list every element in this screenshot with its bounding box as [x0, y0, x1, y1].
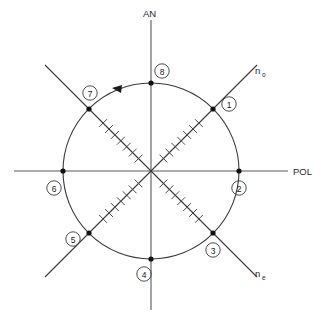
node-dot-2 — [236, 168, 241, 173]
extraordinary-index-axis-label: n e — [255, 268, 266, 281]
node-dot-4 — [148, 256, 153, 261]
marker-label-4: 4 — [142, 270, 147, 280]
marker-label-1: 1 — [227, 100, 232, 110]
polarizer-axis-label: POL — [293, 166, 312, 177]
node-dot-1 — [210, 106, 215, 111]
node-dot-3 — [210, 230, 215, 235]
svg-text:o: o — [262, 71, 266, 78]
marker-label-5: 5 — [71, 235, 76, 245]
node-dot-7 — [86, 106, 91, 111]
node-dot-6 — [60, 168, 65, 173]
node-dot-8 — [148, 80, 153, 85]
node-dot-5 — [86, 230, 91, 235]
analyzer-axis-label: AN — [143, 8, 156, 19]
marker-label-6: 6 — [52, 184, 57, 194]
ordinary-index-axis-label: n o — [255, 65, 266, 78]
marker-label-8: 8 — [160, 67, 165, 77]
marker-label-3: 3 — [211, 246, 216, 256]
polarization-circle-diagram: 12345678 AN POL n o n e — [0, 0, 325, 324]
svg-text:n: n — [255, 268, 260, 279]
marker-label-7: 7 — [88, 89, 93, 99]
svg-text:e: e — [262, 274, 266, 281]
svg-text:n: n — [255, 65, 260, 76]
figure-canvas: 12345678 AN POL n o n e — [0, 0, 325, 324]
marker-label-2: 2 — [237, 184, 242, 194]
